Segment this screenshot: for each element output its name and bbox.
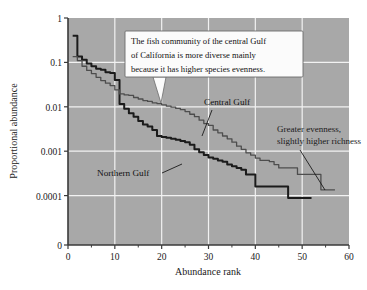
- x-tick-label-10: 10: [110, 252, 120, 262]
- y-tick-label-0-0001: 0.0001: [36, 192, 62, 202]
- y-tick-label-0: 0: [57, 241, 62, 251]
- y-tick-label-1: 1: [57, 14, 62, 24]
- northern-gulf-label: Northern Gulf: [97, 168, 150, 178]
- x-tick-label-20: 20: [157, 252, 167, 262]
- central-gulf-label: Central Gulf: [204, 97, 251, 107]
- y-tick-label-0-1: 0.1: [50, 58, 62, 68]
- callout-line-2: of California is more diverse mainly: [131, 50, 257, 60]
- y-tick-label-0-01: 0.01: [45, 103, 62, 113]
- x-tick-label-0: 0: [66, 252, 71, 262]
- chart-figure: 1 0.1 0.01 0.001 0.0001 0 0 10 20 30 40 …: [0, 0, 367, 290]
- x-tick-label-60: 60: [344, 252, 354, 262]
- evenness-note-line-2: slightly higher richness: [277, 136, 361, 146]
- callout-line-3: because it has higher species evenness.: [131, 64, 265, 74]
- x-tick-label-40: 40: [251, 252, 261, 262]
- evenness-note-line-1: Greater evenness,: [277, 124, 341, 134]
- x-axis-title: Abundance rank: [175, 266, 241, 277]
- y-axis-title: Proportional abundance: [8, 83, 19, 179]
- y-tick-label-0-001: 0.001: [41, 147, 63, 157]
- callout-line-1: The fish community of the central Gulf: [131, 36, 266, 46]
- x-tick-label-50: 50: [297, 252, 307, 262]
- rank-abundance-chart: 1 0.1 0.01 0.001 0.0001 0 0 10 20 30 40 …: [0, 0, 367, 290]
- x-tick-label-30: 30: [204, 252, 214, 262]
